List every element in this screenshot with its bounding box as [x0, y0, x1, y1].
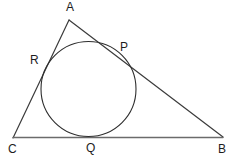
tangency-label-Q: Q [86, 142, 96, 154]
vertex-label-B: B [218, 143, 226, 155]
triangle-side-AB [69, 20, 223, 137]
vertex-label-C: C [8, 143, 17, 155]
vertex-label-A: A [66, 1, 74, 13]
geometry-figure: A B C P Q R [0, 0, 231, 158]
incircle [41, 42, 136, 137]
geometry-canvas [0, 0, 231, 158]
triangle-side-CA [13, 20, 69, 138]
tangency-label-P: P [120, 41, 128, 53]
tangency-label-R: R [30, 54, 39, 66]
